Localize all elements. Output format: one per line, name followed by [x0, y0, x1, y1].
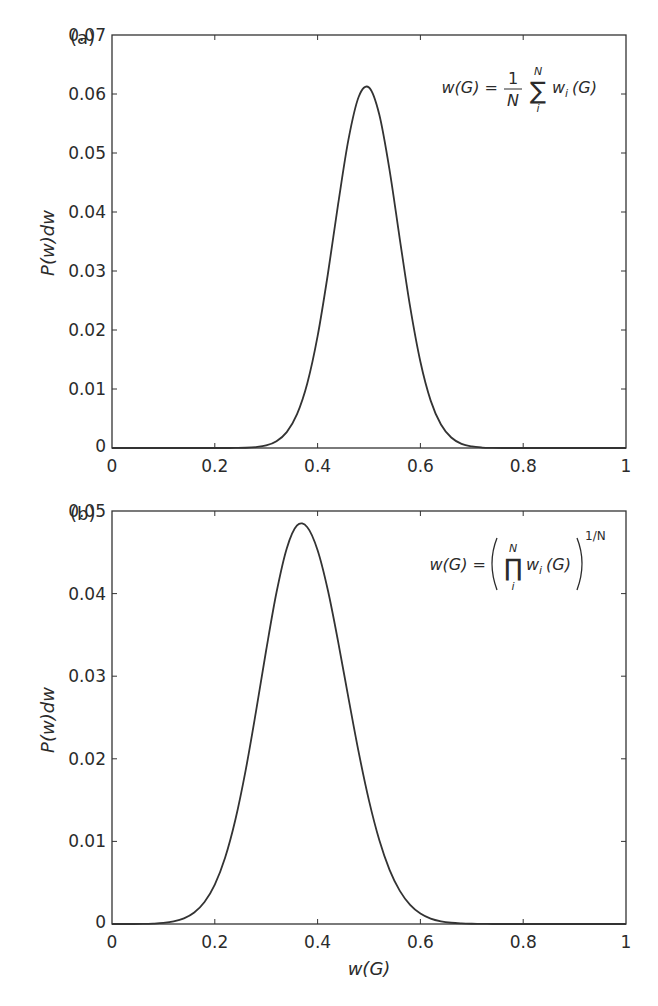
- x-tick-label: 0.6: [407, 456, 434, 476]
- y-tick-label: 0.03: [68, 666, 106, 686]
- x-tick-label: 0.8: [510, 456, 537, 476]
- formula-b-term-sub: i: [539, 564, 542, 577]
- y-tick-label: 0.01: [68, 379, 106, 399]
- y-tick-label: 0.06: [68, 84, 106, 104]
- panel-a-formula: w(G) = 1 N ∑ N i w i (G): [442, 65, 597, 115]
- formula-b-lower-limit: i: [511, 580, 514, 593]
- sigma-icon: ∑: [530, 77, 546, 105]
- panel-a-data-line: [112, 86, 626, 448]
- y-tick-label: 0.02: [68, 749, 106, 769]
- y-tick-label: 0.03: [68, 261, 106, 281]
- formula-a-term: w: [552, 78, 566, 97]
- y-tick-label: 0.07: [68, 25, 106, 45]
- x-tick-label: 0.2: [201, 456, 228, 476]
- formula-a-denominator: N: [507, 91, 519, 110]
- x-tick-label: 0.4: [304, 456, 331, 476]
- chart-canvas: (a) 00.20.40.60.81 00.010.020.030.040.05…: [0, 0, 658, 1006]
- formula-b-term: w: [526, 555, 540, 574]
- formula-a-lhs: w(G) =: [442, 78, 498, 97]
- y-tick-label: 0.04: [68, 584, 106, 604]
- panel-a-x-axis: 00.20.40.60.81: [107, 35, 632, 476]
- formula-b-lhs: w(G) =: [430, 555, 486, 574]
- panel-b-y-axis-label: P(w)dw: [37, 687, 58, 753]
- formula-b-right-paren: [577, 538, 582, 590]
- x-tick-label: 1: [621, 932, 632, 952]
- x-tick-label: 1: [621, 456, 632, 476]
- y-tick-label: 0.01: [68, 831, 106, 851]
- panel-b: (b) 00.20.40.60.81 00.010.020.030.040.05…: [37, 501, 631, 979]
- formula-b-exponent: 1/N: [585, 529, 606, 543]
- panel-b-formula: w(G) = ∏ N i w i (G) 1/N: [430, 529, 606, 593]
- x-axis-label: w(G): [348, 958, 391, 979]
- product-icon: ∏: [504, 554, 522, 582]
- x-tick-label: 0.6: [407, 932, 434, 952]
- formula-a-term-sub: i: [565, 87, 568, 100]
- formula-a-term-arg: (G): [572, 78, 597, 97]
- y-tick-label: 0.04: [68, 202, 106, 222]
- formula-a-lower-limit: i: [536, 102, 539, 115]
- y-tick-label: 0.02: [68, 320, 106, 340]
- formula-b-left-paren: [492, 538, 497, 590]
- y-tick-label: 0.05: [68, 501, 106, 521]
- x-tick-label: 0.4: [304, 932, 331, 952]
- figure: (a) 00.20.40.60.81 00.010.020.030.040.05…: [0, 0, 658, 1006]
- panel-b-y-axis: 00.010.020.030.040.05: [68, 501, 626, 932]
- y-tick-label: 0: [95, 912, 106, 932]
- panel-b-data-line: [112, 523, 626, 924]
- x-tick-label: 0: [107, 456, 118, 476]
- x-tick-label: 0: [107, 932, 118, 952]
- formula-b-upper-limit: N: [509, 542, 517, 555]
- panel-a: (a) 00.20.40.60.81 00.010.020.030.040.05…: [37, 25, 631, 476]
- y-tick-label: 0: [95, 436, 106, 456]
- panel-a-plot-frame: [112, 35, 626, 448]
- formula-a-upper-limit: N: [534, 65, 542, 78]
- y-tick-label: 0.05: [68, 143, 106, 163]
- formula-b-term-arg: (G): [546, 555, 571, 574]
- panel-a-y-axis-label: P(w)dw: [37, 210, 58, 276]
- panel-b-x-axis: 00.20.40.60.81: [107, 511, 632, 952]
- x-tick-label: 0.2: [201, 932, 228, 952]
- formula-a-numerator: 1: [508, 69, 518, 88]
- x-tick-label: 0.8: [510, 932, 537, 952]
